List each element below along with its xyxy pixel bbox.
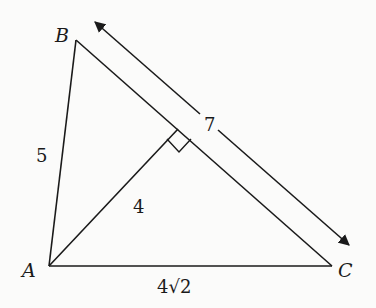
diagram-canvas: B A C 5 4 7 4√2 bbox=[0, 0, 376, 308]
triangle-diagram: B A C 5 4 7 4√2 bbox=[0, 0, 376, 308]
dimension-arrow-upper bbox=[95, 22, 200, 114]
altitude-label: 4 bbox=[133, 196, 144, 217]
vertex-label-a: A bbox=[20, 259, 36, 281]
right-angle-marker bbox=[167, 139, 191, 152]
altitude-line bbox=[49, 129, 178, 266]
side-label-ab: 5 bbox=[36, 145, 47, 166]
side-label-ac: 4√2 bbox=[157, 276, 191, 297]
dimension-arrow-lower bbox=[218, 130, 349, 245]
side-bc bbox=[76, 40, 332, 266]
side-label-bc: 7 bbox=[204, 114, 215, 135]
vertex-label-b: B bbox=[54, 24, 69, 46]
side-ab bbox=[49, 40, 76, 266]
vertex-label-c: C bbox=[338, 259, 353, 281]
